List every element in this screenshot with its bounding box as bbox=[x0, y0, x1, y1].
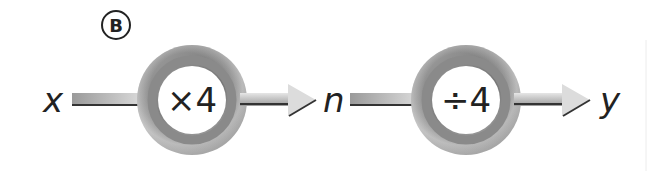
machine-multiply: ×4 bbox=[137, 45, 247, 155]
machine-divide: ÷4 bbox=[411, 45, 521, 155]
input-bar-1 bbox=[72, 93, 140, 106]
input-variable: x bbox=[42, 80, 64, 120]
arrow-1 bbox=[240, 84, 316, 116]
diagram-label-text: B bbox=[109, 15, 123, 36]
function-machine-diagram: B x ×4 n ÷4 bbox=[0, 0, 649, 171]
machine-operation: ×4 bbox=[167, 80, 217, 120]
output-variable: y bbox=[599, 80, 621, 120]
diagram-label-b: B bbox=[102, 11, 130, 39]
machine-operation: ÷4 bbox=[441, 80, 491, 120]
middle-variable: n bbox=[323, 80, 345, 120]
arrow-2 bbox=[514, 84, 590, 116]
input-bar-2 bbox=[350, 93, 416, 106]
